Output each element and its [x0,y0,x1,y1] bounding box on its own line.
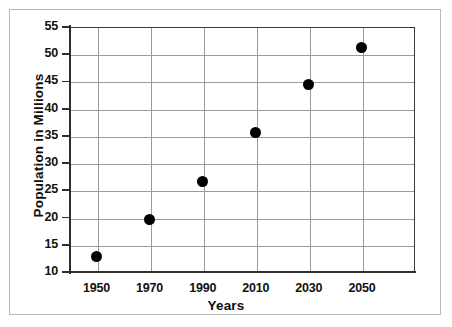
gridline-vertical [98,28,99,271]
y-tick-mark [62,135,70,137]
data-point [250,127,261,138]
y-tick-mark [62,26,70,28]
y-tick-mark [62,53,70,55]
y-tick-mark [62,217,70,219]
x-tick-label: 2050 [348,281,375,295]
x-axis-title: Years [0,298,452,313]
y-tick-mark [62,108,70,110]
gridline-vertical [310,28,311,271]
y-tick-mark [62,189,70,191]
y-axis-line [69,25,71,274]
y-tick-mark [62,271,70,273]
scatter-plot-figure: 1015202530354045505519501970199020102030… [0,0,452,327]
x-tick-label: 1970 [136,281,163,295]
gridline-vertical [257,28,258,271]
gridline-vertical [151,28,152,271]
data-point [197,176,208,187]
gridline-vertical [204,28,205,271]
y-tick-mark [62,81,70,83]
y-tick-label: 55 [34,19,58,33]
gridline-vertical [363,28,364,271]
y-tick-mark [62,244,70,246]
x-tick-label: 1950 [83,281,110,295]
y-axis-title: Population in Millions [31,46,46,246]
x-axis-line [62,271,416,273]
x-tick-label: 1990 [189,281,216,295]
x-tick-label: 2030 [295,281,322,295]
y-tick-label: 10 [34,264,58,278]
plot-area [70,27,415,272]
y-tick-mark [62,162,70,164]
x-tick-label: 2010 [242,281,269,295]
